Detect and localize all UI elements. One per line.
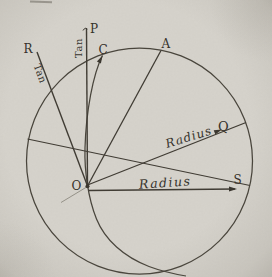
- point-label-p: P: [90, 22, 98, 36]
- geometry-figure: P R C A Q S O Tan Tan Radius Radius: [0, 0, 272, 277]
- tan-label-vertical: Tan: [73, 38, 84, 58]
- scan-smudge: [30, 2, 52, 3]
- tangent-line-op: [87, 28, 88, 186]
- point-label-q: Q: [218, 119, 229, 134]
- point-label-r: R: [24, 42, 34, 56]
- paper-texture: [0, 0, 272, 277]
- point-label-c: C: [99, 43, 108, 57]
- point-label-o: O: [72, 179, 82, 193]
- scanned-figure-page: P R C A Q S O Tan Tan Radius Radius: [0, 0, 272, 277]
- point-label-a: A: [161, 37, 171, 51]
- vertex-dot: [86, 184, 90, 188]
- point-label-s: S: [234, 173, 242, 187]
